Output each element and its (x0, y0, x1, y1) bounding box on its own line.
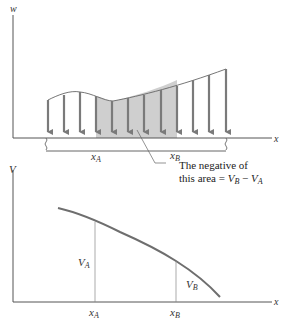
load-curve (48, 69, 226, 101)
break-mark-right (225, 138, 227, 150)
break-mark-left (45, 138, 47, 150)
load-diagram: w x xA xB The negative of this area = VB… (10, 3, 279, 186)
annotation-line-2: this area = VB − VA (179, 172, 263, 186)
va-label: VA (78, 256, 90, 270)
xa-label-bottom: xA (88, 306, 99, 320)
annotation-line-1: The negative of (179, 159, 248, 171)
xa-label-top: xA (90, 150, 101, 164)
shear-load-diagram: w x xA xB The negative of this area = VB… (0, 0, 285, 322)
x-axis-label-bottom: x (273, 296, 279, 307)
v-axis-label: V (9, 163, 17, 175)
w-axis-label: w (10, 3, 17, 14)
shear-diagram: V x VA VB xA xB (9, 163, 279, 320)
x-axis-label-top: x (273, 133, 279, 144)
vb-label: VB (186, 278, 198, 292)
xb-label-bottom: xB (169, 306, 180, 320)
